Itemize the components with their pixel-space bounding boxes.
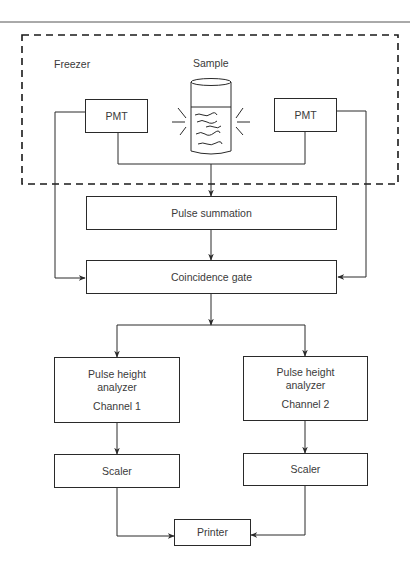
pha1-line3: Channel 1 [93, 400, 141, 413]
pmt-left-label: PMT [105, 110, 127, 123]
wire-scaler2-to-printer [251, 486, 305, 535]
scaler-2-label: Scaler [291, 463, 321, 476]
printer-label: Printer [197, 526, 228, 539]
wire-scaler1-to-printer [117, 488, 174, 536]
printer-box: Printer [174, 519, 251, 546]
pulse-summation-label: Pulse summation [171, 207, 252, 220]
sample-beaker-icon [172, 79, 250, 155]
pha2-line1: Pulse height [277, 366, 335, 379]
pha-channel-1-box: Pulse height analyzer Channel 1 [54, 357, 180, 423]
pmt-right-label: PMT [294, 109, 316, 122]
pha2-line2: analyzer [286, 379, 326, 392]
wire-pmt-right-to-gate [337, 111, 366, 277]
pulse-summation-box: Pulse summation [86, 196, 337, 230]
pha-channel-2-box: Pulse height analyzer Channel 2 [243, 356, 368, 421]
coincidence-gate-box: Coincidence gate [86, 260, 337, 294]
pmt-right-box: PMT [274, 98, 337, 132]
wire-pmts-join [118, 131, 305, 164]
pha2-line3: Channel 2 [282, 398, 330, 411]
scaler-1-box: Scaler [54, 454, 180, 488]
pmt-left-box: PMT [85, 99, 148, 133]
pha1-line2: analyzer [97, 381, 137, 394]
pha1-line1: Pulse height [88, 368, 146, 381]
scaler-2-box: Scaler [243, 453, 368, 486]
coincidence-gate-label: Coincidence gate [171, 271, 252, 284]
freezer-label: Freezer [54, 58, 90, 70]
sample-label: Sample [193, 57, 229, 69]
scaler-1-label: Scaler [102, 465, 132, 478]
wire-pmt-left-to-gate [55, 112, 85, 278]
